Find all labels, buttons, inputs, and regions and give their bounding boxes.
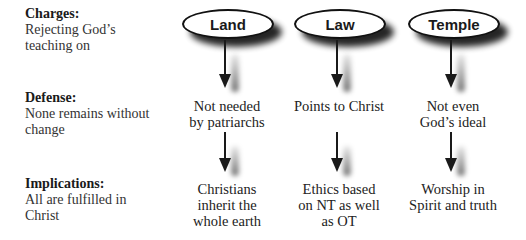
temple-node-label: Temple: [408, 9, 500, 39]
land-defense: Not needed by patriarchs: [171, 98, 283, 130]
down-arrow-icon: [219, 132, 231, 174]
implications-label: Implications: All are fulfilled in Chris…: [25, 176, 126, 224]
down-arrow-icon: [219, 40, 231, 90]
land-implication: Christians inherit the whole earth: [171, 181, 283, 229]
charges-text-line1: Rejecting God’s: [25, 22, 116, 38]
charges-label: Charges: Rejecting God’s teaching on: [25, 6, 116, 54]
land-node: Land: [182, 9, 274, 39]
law-node-label: Law: [294, 9, 386, 39]
charges-heading: Charges:: [25, 6, 116, 22]
law-implication: Ethics based on NT as well as OT: [283, 181, 395, 229]
charges-text-line2: teaching on: [25, 38, 116, 54]
implications-heading: Implications:: [25, 176, 126, 192]
defense-heading: Defense:: [25, 90, 149, 106]
land-node-label: Land: [182, 9, 274, 39]
down-arrow-icon: [445, 40, 457, 90]
defense-text-line1: None remains without: [25, 106, 149, 122]
law-node: Law: [294, 9, 386, 39]
down-arrow-icon: [445, 132, 457, 174]
implications-text-line1: All are fulfilled in: [25, 192, 126, 208]
temple-defense: Not even God’s ideal: [397, 98, 509, 130]
implications-text-line2: Christ: [25, 208, 126, 224]
temple-implication: Worship in Spirit and truth: [397, 181, 509, 213]
law-defense: Points to Christ: [283, 98, 395, 114]
temple-node: Temple: [408, 9, 500, 39]
defense-label: Defense: None remains without change: [25, 90, 149, 138]
down-arrow-icon: [331, 132, 343, 174]
defense-text-line2: change: [25, 122, 149, 138]
down-arrow-icon: [331, 40, 343, 90]
